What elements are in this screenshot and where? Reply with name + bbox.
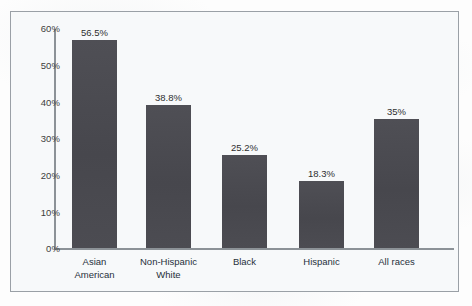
y-tick-label-0: 0% bbox=[20, 244, 60, 254]
bar-value-all-races: 35% bbox=[366, 106, 427, 117]
y-tick-label-30: 30% bbox=[20, 134, 60, 144]
x-category-label-line: All races bbox=[359, 256, 434, 269]
x-category-label-non-hispanic-white: Non-Hispanic White bbox=[129, 256, 208, 281]
y-tick-label-60: 60% bbox=[20, 24, 60, 34]
x-category-label-asian-american: Asian American bbox=[56, 256, 133, 281]
bar-hispanic[interactable] bbox=[299, 181, 344, 248]
x-category-label-line: Black bbox=[207, 256, 282, 269]
y-tick-label-10: 10% bbox=[20, 208, 60, 218]
x-category-label-line: Hispanic bbox=[284, 256, 359, 269]
bar-non-hispanic-white[interactable] bbox=[146, 105, 191, 248]
x-category-label-black: Black bbox=[207, 256, 282, 269]
bar-value-black: 25.2% bbox=[214, 142, 275, 153]
x-category-label-hispanic: Hispanic bbox=[284, 256, 359, 269]
bar-asian-american[interactable] bbox=[72, 40, 117, 248]
x-category-label-line: Asian bbox=[56, 256, 133, 269]
y-tick-label-20: 20% bbox=[20, 171, 60, 181]
bar-value-hispanic: 18.3% bbox=[291, 168, 352, 179]
x-category-label-all-races: All races bbox=[359, 256, 434, 269]
x-category-label-line: White bbox=[129, 269, 208, 282]
bar-all-races[interactable] bbox=[374, 119, 419, 248]
bar-value-non-hispanic-white: 38.8% bbox=[138, 92, 199, 103]
x-axis-baseline bbox=[54, 248, 454, 250]
x-category-label-line: Non-Hispanic bbox=[129, 256, 208, 269]
y-tick-label-50: 50% bbox=[20, 61, 60, 71]
y-tick-label-40: 40% bbox=[20, 98, 60, 108]
x-category-label-line: American bbox=[56, 269, 133, 282]
bar-black[interactable] bbox=[222, 155, 267, 248]
bar-value-asian-american: 56.5% bbox=[64, 27, 125, 38]
chart-frame: 60% 50% 40% 30% 20% 10% 0% 56.5% 38.8% 2… bbox=[10, 11, 459, 292]
figure-canvas: 60% 50% 40% 30% 20% 10% 0% 56.5% 38.8% 2… bbox=[0, 0, 472, 306]
